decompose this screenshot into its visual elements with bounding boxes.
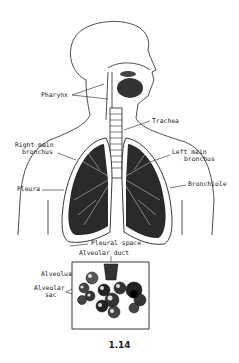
- label-pleural-space: Pleural space: [91, 240, 141, 247]
- oral-cavity-shading: [117, 78, 143, 98]
- label-pleura: Pleura: [17, 186, 40, 193]
- right-lung-drawing: [62, 138, 112, 242]
- label-left-main-bronchus-line2: bronchus: [184, 156, 215, 163]
- respiratory-diagram: Pharynx Trachea Right main bronchus Left…: [0, 0, 239, 363]
- label-alveolus: Alveolus: [41, 271, 72, 278]
- label-alveolar-duct: Alveolar duct: [79, 250, 129, 257]
- left-lung-drawing: [122, 138, 172, 244]
- label-pharynx: Pharynx: [41, 92, 68, 99]
- label-trachea: Trachea: [152, 118, 179, 125]
- figure-number: 1.14: [0, 340, 239, 350]
- label-bronchiole: Bronchiole: [188, 181, 226, 188]
- label-right-main-bronchus-line2: bronchus: [22, 149, 53, 156]
- head-outline: [70, 21, 156, 118]
- label-alveolar-sac-line2: sac: [45, 292, 57, 299]
